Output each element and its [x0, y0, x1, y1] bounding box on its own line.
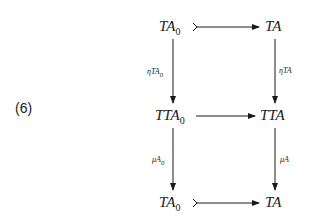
- mono-tail-top: [193, 23, 197, 31]
- mono-tail-bottom: [193, 199, 197, 207]
- arrows: [0, 0, 314, 224]
